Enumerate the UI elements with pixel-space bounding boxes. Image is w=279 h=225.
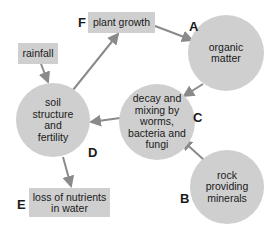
arrow-soil-to-plant-growth — [73, 34, 118, 90]
letter-b: B — [180, 191, 189, 206]
loss-of-nutrients-label: loss of nutrients in water — [32, 192, 107, 214]
rock-label: rock providing minerals — [200, 170, 254, 205]
letter-e: E — [17, 197, 26, 212]
letter-c: C — [193, 110, 202, 125]
loss-of-nutrients-box: loss of nutrients in water — [29, 188, 110, 217]
arrow-plant-growth-to-organic-matter — [155, 26, 192, 40]
letter-a: A — [189, 19, 198, 34]
plant-growth-box: plant growth — [88, 12, 155, 33]
arrow-decay-to-soil — [91, 118, 120, 122]
arrow-rainfall-to-soil — [41, 64, 48, 82]
letter-f: F — [78, 15, 86, 30]
plant-growth-label: plant growth — [93, 17, 150, 28]
rock-circle: rock providing minerals — [190, 150, 264, 224]
soil-label: soil structure and fertility — [31, 97, 75, 143]
decay-circle: decay and mixing by worms, bacteria and … — [119, 84, 195, 160]
rainfall-box: rainfall — [18, 43, 58, 64]
letter-d: D — [88, 145, 97, 160]
arrow-soil-to-loss — [63, 157, 71, 186]
soil-circle: soil structure and fertility — [16, 83, 90, 157]
organic-matter-label: organic matter — [201, 42, 251, 65]
organic-matter-circle: organic matter — [188, 15, 264, 91]
rainfall-label: rainfall — [23, 48, 54, 59]
decay-label: decay and mixing by worms, bacteria and … — [127, 93, 187, 151]
